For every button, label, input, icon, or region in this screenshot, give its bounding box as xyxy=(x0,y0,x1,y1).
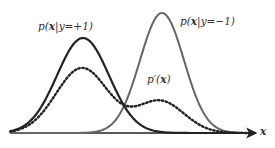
x-axis-label: x xyxy=(260,125,266,137)
label-positive-class: p(x|y=+1) xyxy=(38,20,93,32)
label-mixture: p′(x) xyxy=(147,73,171,85)
curve-positive-class xyxy=(10,38,250,133)
label-negative-class: p(x|y=−1) xyxy=(180,15,235,27)
